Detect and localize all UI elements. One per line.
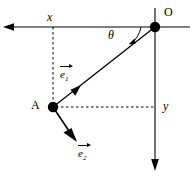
angle-theta-label: θ xyxy=(108,29,114,41)
vector-e1-subscript: 1 xyxy=(65,75,69,83)
vector-e2-arrow xyxy=(55,110,77,142)
vector-e1-label: e1 xyxy=(60,64,73,83)
vector-e2-subscript: 2 xyxy=(83,154,87,162)
point-a-label: A xyxy=(31,99,40,111)
vector-e2-stack: e2 xyxy=(78,143,91,162)
x-axis-label: x xyxy=(47,11,52,23)
x-axis-arrowhead-icon xyxy=(3,23,14,31)
diagram-canvas xyxy=(0,0,195,178)
vector-e2-arrowhead-icon xyxy=(64,128,78,142)
origin-label: O xyxy=(164,6,173,18)
vector-arrow-overbar-icon xyxy=(78,143,91,148)
y-axis-label: y xyxy=(163,100,168,112)
point-a-dot xyxy=(48,102,58,112)
vector-diagram-figure: x O A y θ e1 e2 xyxy=(0,0,195,178)
vector-arrow-overbar-icon xyxy=(60,64,73,69)
vector-e1-symbol-text: e1 xyxy=(60,69,73,83)
x-axis-line xyxy=(3,23,190,31)
vector-e2-label: e2 xyxy=(78,143,91,162)
vector-e1-arrowhead-icon xyxy=(71,85,82,96)
vector-e2-symbol-text: e2 xyxy=(78,148,91,162)
angle-arc xyxy=(129,28,142,45)
y-axis-arrowhead-icon xyxy=(151,159,159,171)
vector-e1-stack: e1 xyxy=(60,64,73,83)
origin-dot xyxy=(150,22,160,32)
angle-arc-arrowhead-icon xyxy=(129,39,136,45)
y-axis-line xyxy=(151,8,159,171)
